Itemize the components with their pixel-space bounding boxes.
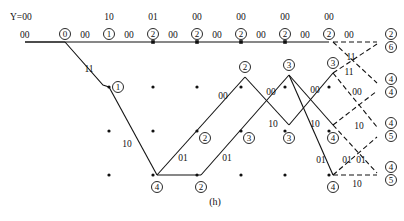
path-metric: 2 <box>243 62 248 72</box>
edge-label: 01 <box>222 153 232 163</box>
candidate-path <box>333 73 377 127</box>
path-metric: 2 <box>239 29 244 39</box>
trellis-diagram: Y=00100100000000000000000000000001222221… <box>0 0 404 221</box>
final-metric: 4 <box>389 118 394 128</box>
edge-label: 00 <box>218 91 228 101</box>
path-metric: 3 <box>287 133 292 143</box>
trellis-node-dot <box>283 129 286 132</box>
received-label: 10 <box>104 12 114 22</box>
branch-label: 00 <box>344 30 354 40</box>
branch-label: 00 <box>256 30 266 40</box>
edge-label: 00 <box>310 85 320 95</box>
edge-label: 01 <box>178 153 188 163</box>
edge-label: 01 <box>342 155 352 165</box>
path-metric: 2 <box>283 29 288 39</box>
trellis-node-dot <box>195 85 198 88</box>
branch-label: 00 <box>124 30 134 40</box>
trellis-node-dot <box>327 129 330 132</box>
trellis-node-dot <box>283 173 286 176</box>
edge-label: 00 <box>352 87 362 97</box>
survivor-path <box>157 77 245 175</box>
path-metric: 3 <box>247 133 252 143</box>
path-metric: 2 <box>327 29 332 39</box>
path-metric: 2 <box>199 182 204 192</box>
final-metric: 4 <box>389 162 394 172</box>
edge-label: 10 <box>354 121 364 131</box>
branch-label: 00 <box>20 30 30 40</box>
trellis-node-dot <box>151 173 154 176</box>
received-label: 01 <box>148 12 158 22</box>
trellis-node-dot <box>327 173 330 176</box>
received-label: 00 <box>192 12 202 22</box>
path-metric: 3 <box>331 58 336 68</box>
final-metric: 2 <box>389 29 394 39</box>
edge-label: 10 <box>310 119 320 129</box>
branch-label: 00 <box>212 30 222 40</box>
candidate-path <box>333 137 377 175</box>
trellis-node-dot <box>107 173 110 176</box>
trellis-node-dot <box>151 85 154 88</box>
path-metric: 0 <box>63 29 68 39</box>
trellis-node-dot <box>107 129 110 132</box>
edge-label: 10 <box>352 179 362 189</box>
final-metric: 5 <box>389 175 394 185</box>
branch-label: 00 <box>300 30 310 40</box>
path-metric: 1 <box>116 82 121 92</box>
edge-label: 01 <box>316 155 326 165</box>
received-label: Y=00 <box>10 12 32 22</box>
edge-label: 10 <box>268 119 278 129</box>
edge-label: 01 <box>356 155 366 165</box>
final-metric: 4 <box>389 74 394 84</box>
trellis-node-dot <box>239 85 242 88</box>
branch-label: 00 <box>168 30 178 40</box>
received-label: 00 <box>236 12 246 22</box>
path-metric: 4 <box>331 133 336 143</box>
received-label: 00 <box>280 12 290 22</box>
trellis-node-dot <box>327 85 330 88</box>
trellis-node-dot <box>283 85 286 88</box>
final-metric: 5 <box>389 131 394 141</box>
final-metric: 4 <box>389 87 394 97</box>
edge-label: 11 <box>344 67 353 77</box>
path-metric: 2 <box>195 29 200 39</box>
edge-label: 00 <box>266 87 276 97</box>
path-metric: 3 <box>287 60 292 70</box>
path-metric: 2 <box>203 133 208 143</box>
edge-label: 11 <box>346 52 355 62</box>
trellis-node-dot <box>239 173 242 176</box>
trellis-node-dot <box>151 129 154 132</box>
figure-caption: (h) <box>209 196 221 208</box>
path-metric: 4 <box>155 182 160 192</box>
path-metric: 4 <box>331 182 336 192</box>
survivor-path <box>109 87 157 175</box>
edge-label: 11 <box>84 64 93 74</box>
final-metric: 6 <box>389 42 394 52</box>
edge-label: 10 <box>122 139 132 149</box>
received-label: 00 <box>324 12 334 22</box>
path-metric: 1 <box>107 29 112 39</box>
candidate-path <box>333 125 377 173</box>
path-metric: 2 <box>151 29 156 39</box>
branch-label: 00 <box>80 30 90 40</box>
